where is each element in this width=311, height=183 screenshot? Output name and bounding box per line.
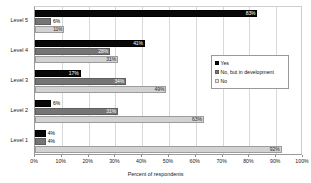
x-axis-tick-mark <box>34 155 35 157</box>
bar-value-label: 31% <box>103 55 116 63</box>
bar[interactable] <box>35 100 51 107</box>
x-axis-title: Percent of respondents <box>0 170 311 178</box>
x-axis-tick-label: 100% <box>295 158 308 165</box>
x-axis-tick-mark <box>114 155 115 157</box>
bar-value-label: 34% <box>111 77 124 85</box>
bar-value-label: 17% <box>66 69 79 77</box>
bar[interactable] <box>35 10 257 17</box>
bar-row: 6% <box>35 18 301 25</box>
bar-row: 6% <box>35 100 301 107</box>
y-axis-label: Level 4 <box>11 47 28 54</box>
bar-row: 31% <box>35 108 301 115</box>
bar-value-label: 4% <box>48 129 55 137</box>
x-axis-tick-label: 70% <box>216 158 226 165</box>
bar-row: 11% <box>35 26 301 33</box>
x-axis-tick-label: 90% <box>270 158 280 165</box>
bar-row: 4% <box>35 138 301 145</box>
bar-value-label: 31% <box>103 107 116 115</box>
x-axis-tick-label: 30% <box>109 158 119 165</box>
bar-value-label: 11% <box>49 25 62 33</box>
bar-value-label: 6% <box>53 17 60 25</box>
x-axis-tick-mark <box>141 155 142 157</box>
legend-item[interactable]: No, but in development <box>215 68 285 76</box>
bar-row: 92% <box>35 146 301 153</box>
bar-value-label: 63% <box>189 115 202 123</box>
bar-value-label: 4% <box>48 137 55 145</box>
x-axis-tick-mark <box>88 155 89 157</box>
x-axis-tick-mark <box>248 155 249 157</box>
bar-group: 83%6%11% <box>35 10 301 33</box>
bar[interactable] <box>35 130 46 137</box>
legend-label: No, but in development <box>221 69 274 76</box>
legend-swatch-icon <box>215 61 219 65</box>
bar-value-label: 28% <box>95 47 108 55</box>
bar-group: 4%4%92% <box>35 130 301 153</box>
bar-group: 6%31%63% <box>35 100 301 123</box>
x-axis-tick-label: 20% <box>82 158 92 165</box>
x-axis-tick-mark <box>168 155 169 157</box>
x-axis-tick-label: 0% <box>30 158 38 165</box>
x-axis-tick-mark <box>222 155 223 157</box>
x-axis-tick-mark <box>195 155 196 157</box>
x-axis-tick-mark <box>275 155 276 157</box>
legend-label: No <box>221 78 228 85</box>
bar-row: 83% <box>35 10 301 17</box>
x-axis-tick-mark <box>61 155 62 157</box>
bar[interactable] <box>35 86 166 93</box>
bar-value-label: 92% <box>267 145 280 153</box>
bar-row: 4% <box>35 130 301 137</box>
x-axis-ticks: 0%10%20%30%40%50%60%70%80%90%100% <box>34 155 302 166</box>
bar[interactable] <box>35 138 46 145</box>
legend-item[interactable]: No <box>215 77 285 85</box>
bar[interactable] <box>35 116 204 123</box>
y-axis-category-labels: Level 5Level 4Level 3Level 2Level 1 <box>0 6 31 155</box>
y-axis-label: Level 3 <box>11 77 28 84</box>
bar-value-label: 83% <box>242 9 255 17</box>
bar-row: 41% <box>35 40 301 47</box>
x-axis-tick-label: 50% <box>163 158 173 165</box>
chart-legend: YesNo, but in developmentNo <box>211 55 289 89</box>
bar[interactable] <box>35 18 51 25</box>
y-axis-label: Level 5 <box>11 17 28 24</box>
legend-label: Yes <box>221 60 229 67</box>
x-axis-tick-label: 10% <box>56 158 66 165</box>
bar-chart: 83%6%11%41%28%31%17%34%49%6%31%63%4%4%92… <box>0 0 311 183</box>
x-axis-tick-label: 60% <box>190 158 200 165</box>
y-axis-label: Level 1 <box>11 137 28 144</box>
bar-value-label: 41% <box>130 39 143 47</box>
bar[interactable] <box>35 40 145 47</box>
x-axis-tick-label: 80% <box>243 158 253 165</box>
legend-swatch-icon <box>215 70 219 74</box>
x-axis-tick-mark <box>302 155 303 157</box>
legend-swatch-icon <box>215 79 219 83</box>
legend-item[interactable]: Yes <box>215 59 285 67</box>
bar-value-label: 6% <box>53 99 60 107</box>
bar[interactable] <box>35 146 282 153</box>
y-axis-label: Level 2 <box>11 107 28 114</box>
bar-row: 63% <box>35 116 301 123</box>
bar-value-label: 49% <box>151 85 164 93</box>
x-axis-tick-label: 40% <box>136 158 146 165</box>
